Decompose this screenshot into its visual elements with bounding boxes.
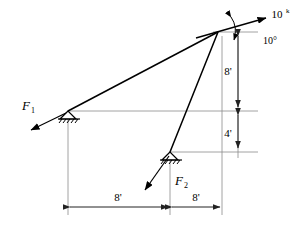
dimension-vertical-4ft-label: 4' xyxy=(224,127,232,139)
force-f2-subscript: 2 xyxy=(184,181,188,190)
applied-load-unit: k xyxy=(286,7,290,15)
force-f1-subscript: 1 xyxy=(31,106,35,115)
member-right-strut xyxy=(170,32,218,152)
member-left-chord xyxy=(68,32,218,111)
figure-canvas: F 1 F 2 10 k 10° 8' 4' 8' xyxy=(0,0,308,239)
dimension-horizontal-right-8ft-label: 8' xyxy=(192,191,200,203)
applied-load-arrow xyxy=(196,17,266,40)
lower-pin-support xyxy=(160,152,182,164)
left-pin-support xyxy=(58,111,80,123)
dimension-horizontal-left-8ft-label: 8' xyxy=(114,191,122,203)
force-f2-label: F xyxy=(174,173,184,188)
force-f2-arrow xyxy=(145,156,169,190)
structural-diagram-figure: F 1 F 2 10 k 10° 8' 4' 8' xyxy=(0,0,308,239)
applied-load-label: 10 xyxy=(272,8,284,20)
load-angle-label: 10° xyxy=(263,35,277,46)
extension-lines xyxy=(68,32,258,215)
force-f1-label: F xyxy=(21,98,31,113)
dimension-vertical-8ft-label: 8' xyxy=(224,65,232,77)
frame-members xyxy=(68,32,218,152)
